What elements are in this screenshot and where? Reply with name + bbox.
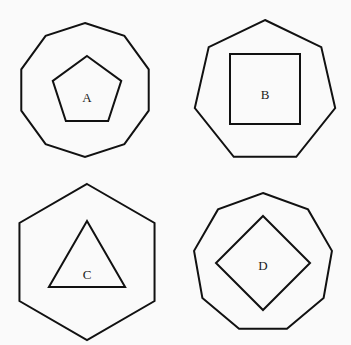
outer-polygon-hexagon [19,184,154,340]
shape-label-b: B [261,87,270,102]
panel-b-canvas: B [176,0,351,172]
panel-c-canvas: C [0,173,175,345]
panel-b: B [176,0,351,172]
shape-label-d: D [258,258,267,273]
panel-d: D [176,173,351,345]
inner-polygon-pentagon [53,56,121,121]
panel-a-canvas: A [0,0,175,172]
panel-a: A [0,0,175,172]
panel-d-canvas: D [176,173,351,345]
nested-polygons-figure: A B C D [0,0,351,345]
panel-c: C [0,173,175,345]
shape-label-c: C [83,267,92,282]
shape-label-a: A [82,90,92,105]
